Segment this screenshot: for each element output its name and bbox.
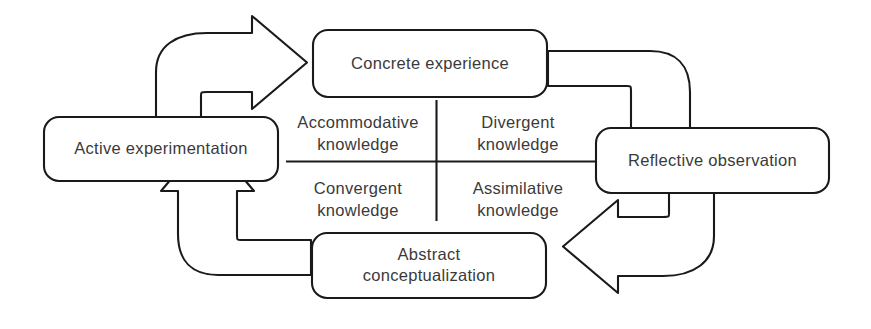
arrow-active-experimentation-to-concrete-experience — [156, 16, 307, 118]
quadrant-label-convergent-line2: knowledge — [317, 201, 399, 219]
quadrant-label-assimilative-line1: Assimilative — [473, 179, 564, 197]
quadrant-label-accommodative-line1: Accommodative — [297, 113, 418, 131]
diagram-canvas: Concrete experience Reflective observati… — [0, 0, 871, 329]
quadrant-label-convergent-line1: Convergent — [314, 179, 402, 197]
quadrant-label-divergent-line2: knowledge — [477, 135, 559, 153]
quadrant-label-assimilative-line2: knowledge — [477, 201, 559, 219]
quadrant-label-accommodative-line2: knowledge — [317, 135, 399, 153]
node-concrete-experience-label: Concrete experience — [351, 54, 509, 72]
node-abstract-conceptualization-label-line1: Abstract — [398, 245, 461, 263]
quadrant-label-divergent-line1: Divergent — [481, 113, 554, 131]
node-reflective-observation-label: Reflective observation — [628, 151, 797, 169]
node-abstract-conceptualization-label-line2: conceptualization — [363, 266, 496, 284]
kolb-learning-cycle-diagram: Concrete experience Reflective observati… — [0, 0, 871, 329]
arrow-reflective-observation-to-abstract-conceptualization — [563, 193, 714, 293]
node-active-experimentation-label: Active experimentation — [74, 139, 248, 157]
